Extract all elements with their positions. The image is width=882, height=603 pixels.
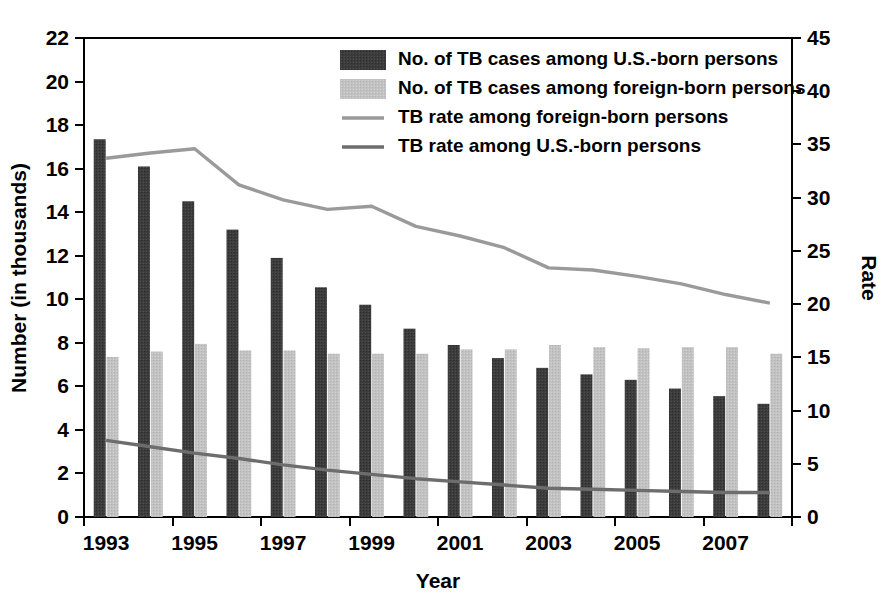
bar (549, 345, 561, 517)
bar (505, 349, 517, 517)
bar (593, 347, 605, 517)
y-axis-right-tick-label: 20 (807, 292, 830, 315)
bar (359, 305, 371, 517)
bar (625, 380, 637, 517)
legend-label: No. of TB cases among U.S.-born persons (398, 48, 778, 69)
bar (315, 287, 327, 517)
bar (195, 344, 207, 517)
y-axis-left-tick-label: 16 (46, 157, 69, 180)
bar (226, 230, 238, 517)
y-axis-left-tick-label: 12 (46, 244, 69, 267)
y-axis-right-tick-label: 10 (807, 399, 830, 422)
y-axis-right-tick-label: 35 (807, 132, 831, 155)
y-axis-left-tick-label: 2 (57, 461, 69, 484)
bar (669, 389, 681, 517)
bar (328, 354, 340, 517)
legend-swatch (340, 50, 386, 70)
y-axis-left-tick-label: 14 (46, 200, 70, 223)
x-axis-tick-label: 2007 (702, 531, 749, 554)
y-axis-right-tick-label: 30 (807, 186, 830, 209)
bar (448, 345, 460, 517)
y-axis-left-tick-label: 0 (57, 505, 69, 528)
legend-label: TB rate among foreign-born persons (398, 106, 728, 127)
bar (107, 357, 119, 517)
y-axis-right-tick-label: 25 (807, 239, 831, 262)
y-axis-left-tick-label: 18 (46, 113, 70, 136)
legend-swatch (340, 79, 386, 99)
x-axis-tick-label: 1993 (83, 531, 130, 554)
bar (94, 139, 106, 517)
x-axis-tick-label: 2001 (437, 531, 484, 554)
y-axis-right-tick-label: 15 (807, 345, 831, 368)
bar (239, 350, 251, 517)
x-axis-tick-label: 2005 (614, 531, 661, 554)
x-axis-tick-label: 1999 (348, 531, 395, 554)
y-axis-right-tick-label: 0 (807, 505, 819, 528)
y-axis-left-tick-label: 22 (46, 26, 69, 49)
x-axis-ticks: 19931995199719992001200320052007 (83, 517, 792, 554)
bar (284, 350, 296, 517)
y-axis-right-tick-label: 40 (807, 79, 830, 102)
bar (151, 352, 163, 517)
bar (271, 258, 283, 517)
bar (403, 329, 415, 517)
y-axis-right-title: Rate (858, 255, 881, 301)
y-axis-left-tick-label: 20 (46, 70, 69, 93)
x-axis-tick-label: 1995 (171, 531, 218, 554)
bar (713, 396, 725, 517)
legend-label: TB rate among U.S.-born persons (398, 135, 701, 156)
bar (757, 404, 769, 517)
bar (580, 374, 592, 517)
bar (461, 349, 473, 517)
bar (138, 166, 150, 517)
x-axis-tick-label: 2003 (525, 531, 572, 554)
y-axis-left-tick-label: 6 (57, 374, 69, 397)
chart-canvas: 0246810121416182022 051015202530354045 1… (0, 0, 882, 603)
y-axis-left-tick-label: 10 (46, 287, 69, 310)
y-axis-left-tick-label: 8 (57, 331, 69, 354)
y-axis-right-ticks: 051015202530354045 (792, 26, 831, 528)
bar (372, 354, 384, 517)
legend-label: No. of TB cases among foreign-born perso… (398, 77, 806, 98)
tb-cases-and-rates-chart: 0246810121416182022 051015202530354045 1… (0, 0, 882, 603)
bar (536, 368, 548, 517)
x-axis-title: Year (416, 569, 460, 592)
bar (182, 201, 194, 517)
bar (416, 354, 428, 517)
y-axis-left-tick-label: 4 (57, 418, 69, 441)
y-axis-right-tick-label: 45 (807, 26, 831, 49)
x-axis-tick-label: 1997 (260, 531, 307, 554)
y-axis-left-title: Number (in thousands) (7, 163, 30, 393)
y-axis-left-ticks: 0246810121416182022 (46, 26, 84, 528)
bar (770, 354, 782, 517)
y-axis-right-tick-label: 5 (807, 452, 819, 475)
bar (492, 358, 504, 517)
